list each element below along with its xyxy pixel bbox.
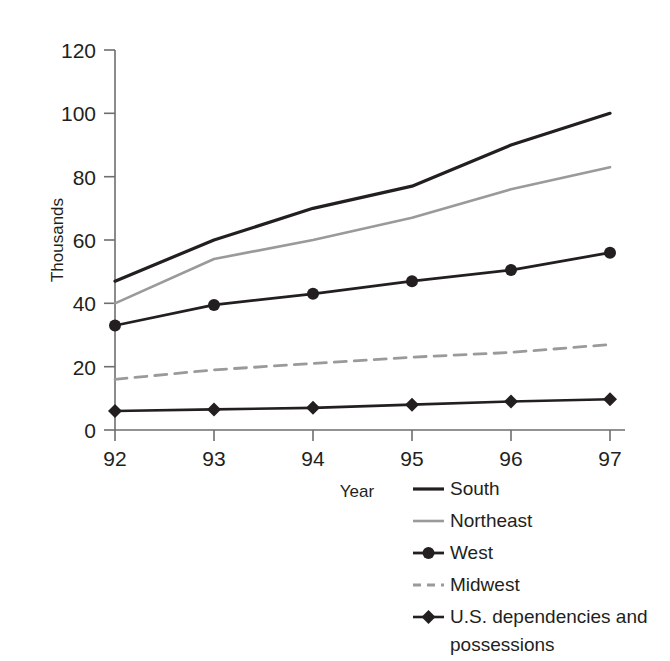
x-axis-title: Year — [340, 482, 375, 501]
x-tick-label: 96 — [499, 447, 522, 470]
legend-swatch-marker — [422, 610, 436, 624]
x-tick-label: 92 — [103, 447, 126, 470]
series-line — [115, 253, 610, 326]
chart-container: 120 100 80 60 40 20 0 92 93 94 95 96 97 … — [0, 0, 670, 661]
y-tick-label: 100 — [61, 102, 96, 125]
series-u-s-dependencies-and-possessions — [108, 392, 617, 418]
y-tick-label: 40 — [73, 292, 96, 315]
y-axis-ticks — [104, 50, 115, 430]
series-northeast — [115, 167, 610, 303]
legend-label: Northeast — [450, 510, 533, 531]
x-axis-tick-labels: 92 93 94 95 96 97 — [103, 447, 621, 470]
chart-legend: SouthNortheastWestMidwestU.S. dependenci… — [413, 478, 648, 655]
data-point-marker — [307, 288, 319, 300]
y-tick-label: 20 — [73, 356, 96, 379]
legend-item-midwest[interactable]: Midwest — [413, 574, 520, 595]
data-point-marker — [504, 395, 518, 409]
legend-item-u-s-dependencies-and[interactable]: U.S. dependencies andpossessions — [413, 606, 648, 655]
line-chart: 120 100 80 60 40 20 0 92 93 94 95 96 97 … — [0, 0, 670, 661]
x-tick-label: 95 — [400, 447, 423, 470]
data-point-marker — [604, 247, 616, 259]
data-point-marker — [208, 299, 220, 311]
series-line — [115, 345, 610, 380]
y-axis-title: Thousands — [48, 198, 67, 282]
y-tick-label: 0 — [84, 419, 96, 442]
x-tick-label: 94 — [301, 447, 325, 470]
x-axis-ticks — [115, 430, 610, 441]
data-point-marker — [108, 404, 122, 418]
legend-label: South — [450, 478, 500, 499]
legend-item-south[interactable]: South — [413, 478, 500, 499]
series-south — [115, 113, 610, 281]
x-tick-label: 97 — [598, 447, 621, 470]
legend-label-line2: possessions — [450, 634, 555, 655]
series-line — [115, 113, 610, 281]
series-west — [109, 247, 616, 332]
data-point-marker — [109, 320, 121, 332]
x-tick-label: 93 — [202, 447, 225, 470]
series-layer — [108, 113, 617, 418]
data-point-marker — [406, 275, 418, 287]
series-line — [115, 399, 610, 411]
legend-item-west[interactable]: West — [413, 542, 494, 563]
data-point-marker — [505, 264, 517, 276]
y-tick-label: 60 — [73, 229, 96, 252]
y-tick-label: 120 — [61, 39, 96, 62]
y-tick-label: 80 — [73, 166, 96, 189]
data-point-marker — [306, 401, 320, 415]
legend-swatch-marker — [423, 547, 435, 559]
legend-label: Midwest — [450, 574, 520, 595]
data-point-marker — [207, 402, 221, 416]
legend-label: West — [450, 542, 494, 563]
series-midwest — [115, 345, 610, 380]
data-point-marker — [405, 398, 419, 412]
series-line — [115, 167, 610, 303]
legend-item-northeast[interactable]: Northeast — [413, 510, 533, 531]
legend-label: U.S. dependencies and — [450, 606, 648, 627]
data-point-marker — [603, 392, 617, 406]
